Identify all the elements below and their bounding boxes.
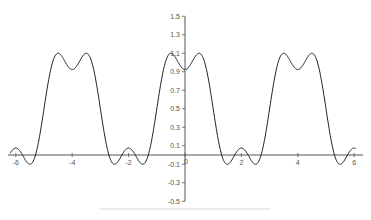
x-tick-label: -6 — [13, 159, 19, 166]
caption-faded — [100, 208, 270, 210]
y-tick-label: -0.5 — [168, 198, 180, 205]
y-tick-label: -0.3 — [168, 179, 180, 186]
y-tick-label: 0.9 — [170, 68, 180, 75]
x-tick-label: 6 — [352, 159, 356, 166]
y-axis: 1.51.31.10.90.70.50.30.1-0.1-0.3-0.50 — [168, 13, 188, 205]
origin-label: 0 — [184, 158, 188, 165]
chart-plot: -6-4-2246 1.51.31.10.90.70.50.30.1-0.1-0… — [0, 0, 371, 220]
y-tick-label: 1.5 — [170, 13, 180, 20]
y-tick-label: 0.5 — [170, 105, 180, 112]
y-tick-label: 1.3 — [170, 31, 180, 38]
y-tick-label: 0.1 — [170, 142, 180, 149]
y-tick-label: -0.1 — [168, 161, 180, 168]
x-tick-label: 2 — [239, 159, 243, 166]
x-tick-label: -2 — [125, 159, 131, 166]
y-tick-label: 0.3 — [170, 124, 180, 131]
y-tick-label: 0.7 — [170, 87, 180, 94]
x-tick-label: 4 — [296, 159, 300, 166]
x-tick-label: -4 — [69, 159, 75, 166]
